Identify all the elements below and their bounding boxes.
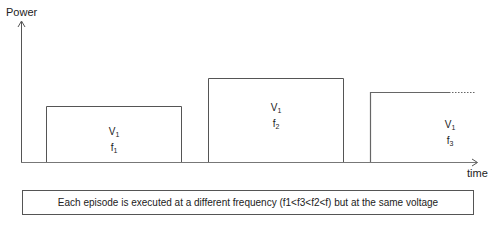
- episode-1-label: V1 f1: [100, 125, 128, 157]
- episode-3-label: V1 f3: [436, 118, 464, 150]
- caption-box: Each episode is executed at a different …: [22, 190, 474, 215]
- x-axis-label: time: [467, 167, 488, 179]
- y-axis-label: Power: [6, 6, 37, 18]
- episode-2-label: V1 f2: [262, 101, 290, 133]
